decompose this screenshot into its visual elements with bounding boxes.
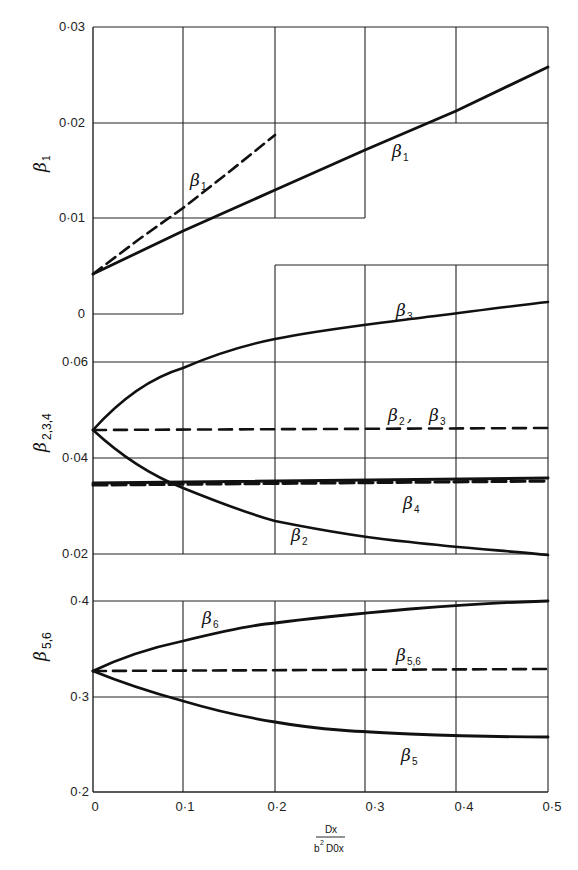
y-tick: 0·02 (59, 115, 85, 130)
x-label-numerator: Dx (325, 824, 337, 835)
label-beta3: β (395, 300, 406, 320)
label-sub: 5 (412, 756, 418, 767)
chart: 0·03 0·02 0·01 0 0·06 0·04 0·02 0·4 0·3 … (0, 0, 578, 870)
x-label-den-d: D0x (326, 843, 344, 854)
beta2-line (93, 430, 548, 555)
x-tick: 0·4 (455, 799, 474, 814)
y-tick: 0·4 (70, 593, 89, 608)
x-tick: 0·1 (176, 799, 195, 814)
x-tick: 0·2 (268, 799, 287, 814)
y-tick: 0·04 (62, 450, 88, 465)
y-ticks-middle: 0·06 0·04 0·02 (62, 354, 88, 561)
y-ticks-top: 0·03 0·02 0·01 0 (59, 19, 85, 321)
x-ticks: 0 0·1 0·2 0·3 0·4 0·5 (91, 799, 561, 814)
x-tick: 0·5 (543, 799, 562, 814)
y-tick: 0·2 (70, 784, 89, 799)
y-tick: 0·02 (62, 546, 88, 561)
x-tick: 0 (91, 799, 98, 814)
label-sub: 4 (414, 504, 420, 515)
y-label: β (30, 442, 50, 453)
label-sub: 1 (201, 181, 207, 192)
label-beta2-beta3: β (387, 405, 398, 425)
beta6-line (93, 601, 548, 671)
x-label-den-sup: 2 (320, 839, 324, 846)
label-sub: 2 (302, 536, 308, 547)
label-beta1-solid: β (391, 141, 402, 161)
x-tick: 0·3 (366, 799, 385, 814)
label-sub: 3 (440, 416, 446, 427)
label-comma: , (407, 405, 412, 425)
label-beta2: β (290, 525, 301, 545)
y-tick: 0·01 (59, 210, 85, 225)
y-label: β (30, 162, 50, 173)
label-beta4: β (402, 493, 413, 513)
y-tick: 0·06 (62, 354, 88, 369)
beta3-line (93, 302, 548, 430)
label-beta3b: β (428, 405, 439, 425)
y-axis-label-middle: β 2,3,4 (30, 413, 54, 453)
beta5-line (93, 671, 548, 737)
beta1-dashed-line (93, 135, 275, 274)
label-sub: 2 (399, 416, 405, 427)
y-axis-label-top: β 1 (30, 155, 52, 173)
label-beta6: β (201, 608, 212, 628)
y-tick: 0·3 (70, 689, 89, 704)
y-axis-label-bottom: β 5,6 (30, 632, 54, 662)
y-tick: 0 (78, 306, 85, 321)
beta1-solid-line (93, 67, 548, 274)
y-label-sub: 5,6 (40, 632, 54, 649)
label-sub: 6 (213, 619, 219, 630)
beta56-dashed-line (93, 669, 548, 671)
label-sub: 1 (403, 152, 409, 163)
y-ticks-bottom: 0·4 0·3 0·2 (70, 593, 89, 799)
y-label-sub: 1 (41, 155, 52, 161)
label-beta1-dashed: β (189, 170, 200, 190)
curve-labels: β 1 β 1 β 3 β 2 , β 3 β 4 β 2 β 6 β 5,6 … (189, 141, 446, 767)
label-sub: 3 (407, 311, 413, 322)
label-beta56: β (395, 645, 406, 665)
beta23-dashed-line (93, 428, 548, 430)
curves (93, 67, 548, 737)
x-axis-label: Dx b 2 D0x (314, 824, 345, 854)
y-label-sub: 2,3,4 (40, 413, 54, 440)
label-beta5: β (400, 745, 411, 765)
y-tick: 0·03 (59, 19, 85, 34)
grid (93, 27, 548, 792)
y-label: β (30, 651, 50, 662)
label-sub: 5,6 (407, 656, 421, 667)
